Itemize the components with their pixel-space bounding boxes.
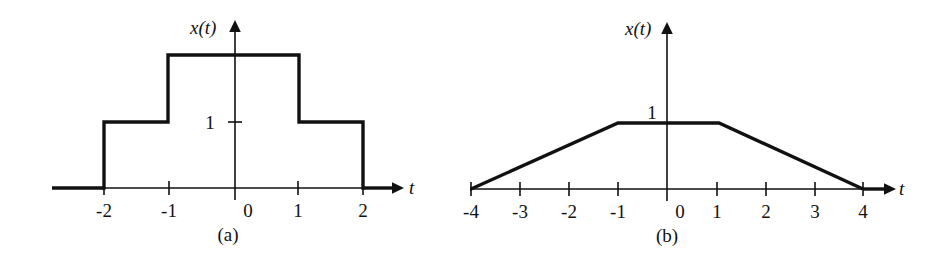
x-tick-label-b-neg2: -2 bbox=[561, 202, 577, 221]
x-tick-label-b-2: 2 bbox=[761, 202, 771, 221]
x-tick-label-a-zero: 0 bbox=[243, 201, 253, 220]
chart-b-svg bbox=[470, 0, 941, 260]
x-tick-label-a-2: 2 bbox=[358, 201, 368, 220]
x-axis-label-a: t bbox=[409, 178, 414, 197]
x-tick-label-a-neg2: -2 bbox=[96, 201, 112, 220]
y-axis-label-b: x(t) bbox=[625, 19, 651, 38]
x-tick-label-b-3: 3 bbox=[810, 202, 820, 221]
x-axis-b bbox=[470, 183, 896, 195]
y-axis-b bbox=[661, 22, 673, 201]
chart-panel-a: x(t) t 1 -2 -1 0 1 2 (a) bbox=[0, 0, 470, 260]
figure-container: x(t) t 1 -2 -1 0 1 2 (a) bbox=[0, 0, 941, 260]
panel-caption-a: (a) bbox=[217, 225, 238, 244]
x-tick-label-b-neg1: -1 bbox=[610, 202, 626, 221]
x-axis-label-b: t bbox=[899, 179, 904, 198]
chart-a-svg bbox=[0, 0, 470, 260]
y-axis-label-a: x(t) bbox=[190, 18, 216, 37]
x-tick-label-a-1: 1 bbox=[293, 201, 303, 220]
x-tick-label-b-4: 4 bbox=[858, 202, 868, 221]
x-tick-label-b-neg4: -4 bbox=[463, 202, 479, 221]
level-label-b: 1 bbox=[647, 103, 657, 122]
y-axis-a bbox=[229, 20, 241, 200]
chart-panel-b: x(t) t 1 -4 -3 -2 -1 0 1 2 3 4 (b) bbox=[470, 0, 941, 260]
x-tick-label-b-1: 1 bbox=[712, 202, 722, 221]
panel-caption-b: (b) bbox=[656, 226, 678, 245]
x-tick-label-b-zero: 0 bbox=[675, 202, 685, 221]
x-tick-label-b-neg3: -3 bbox=[512, 202, 528, 221]
level-label-a: 1 bbox=[205, 113, 215, 132]
x-tick-label-a-neg1: -1 bbox=[161, 201, 177, 220]
